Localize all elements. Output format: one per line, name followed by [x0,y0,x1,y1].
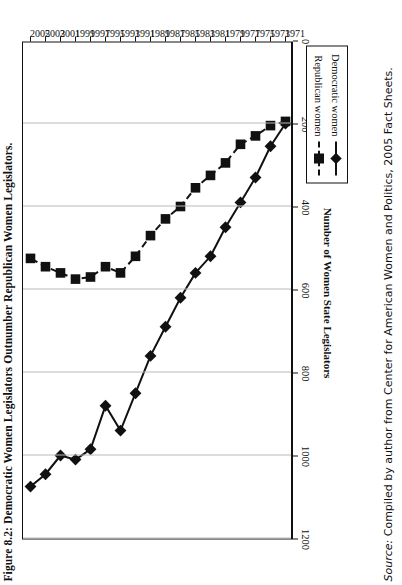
source-text: Compiled by author from Center for Ameri… [382,67,395,540]
data-point-marker [221,158,231,168]
value-tick [293,206,298,207]
rotated-page-wrapper: Figure 8.2: Democratic Women Legislators… [0,0,402,585]
data-point-marker [281,116,291,126]
gridline [23,454,291,455]
data-point-marker [26,253,36,263]
data-point-marker [251,131,261,141]
data-point-marker [250,171,262,183]
value-tick [293,289,298,290]
gridline [23,537,291,538]
legend-item-republican: Republican women [311,53,326,175]
gridline [23,205,291,206]
legend: Republican women Democratic women [306,45,348,183]
source-prefix: Source: [382,539,395,581]
data-point-marker [86,272,96,282]
series-line-democratic [31,123,286,486]
figure-root: Figure 8.2: Democratic Women Legislators… [0,0,402,585]
data-point-marker [130,387,142,399]
legend-label-democratic: Democratic women [330,53,341,136]
year-tick-label: 2005 [30,28,50,39]
data-point-marker [100,399,112,411]
data-point-marker [191,183,201,193]
figure-title: Figure 8.2: Democratic Women Legislators… [2,142,14,581]
value-tick [293,123,298,124]
data-point-marker [236,139,246,149]
value-tick-label: 600 [300,282,311,298]
data-point-marker [160,320,172,332]
gridline [23,371,291,372]
data-point-marker [115,424,127,436]
plot-area [22,41,292,539]
legend-item-democratic: Democratic women [328,53,343,175]
source-note: Source: Compiled by author from Center f… [382,67,395,581]
data-point-marker [71,274,81,284]
gridline [23,288,291,289]
data-point-marker [131,251,141,261]
data-point-marker [161,214,171,224]
value-tick-label: 800 [300,365,311,381]
value-tick-label: 400 [300,199,311,215]
data-point-marker [41,261,51,271]
gridline [23,122,291,123]
data-point-marker [101,261,111,271]
data-point-marker [56,268,66,278]
data-point-marker [206,170,216,180]
value-tick-label: 1200 [300,529,311,550]
data-point-marker [146,230,156,240]
value-tick [293,455,298,456]
figure-landscape-canvas: Figure 8.2: Democratic Women Legislators… [0,0,402,585]
value-tick-label: 1000 [300,446,311,467]
square-marker-icon [313,141,325,175]
legend-label-republican: Republican women [313,55,324,136]
data-point-marker [116,268,126,278]
value-tick [293,538,298,539]
value-tick-label: 0 [300,38,311,43]
value-tick [293,40,298,41]
value-tick [293,372,298,373]
data-point-marker [175,291,187,303]
data-point-marker [145,349,157,361]
data-point-marker [220,221,232,233]
series-line-republican [31,121,286,279]
diamond-marker-icon [330,141,342,175]
